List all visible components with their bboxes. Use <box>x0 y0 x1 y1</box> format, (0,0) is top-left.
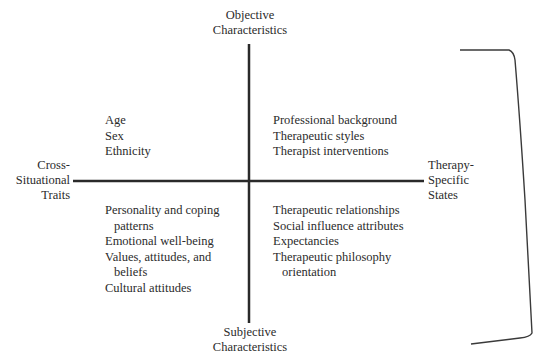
list-item: Cultural attitudes <box>105 281 220 297</box>
top-axis-label-line2: Characteristics <box>190 23 310 38</box>
top-axis-label: Objective Characteristics <box>190 8 310 38</box>
left-axis-label: Cross- Situational Traits <box>0 158 70 203</box>
list-item: Professional background <box>273 113 397 129</box>
list-item: Therapeutic relationships <box>273 203 404 219</box>
left-axis-label-line3: Traits <box>0 188 70 203</box>
list-item: Ethnicity <box>105 144 151 160</box>
list-item: Therapeutic styles <box>273 129 397 145</box>
quadrant-bottom-left: Personality and coping patterns Emotiona… <box>105 203 220 296</box>
list-item: Therapeutic philosophy orientation <box>273 250 404 281</box>
left-axis-label-line2: Situational <box>0 173 70 188</box>
quadrant-top-left: Age Sex Ethnicity <box>105 113 151 160</box>
right-axis-label-line3: States <box>428 188 498 203</box>
list-item: Expectancies <box>273 234 404 250</box>
list-item: Personality and coping patterns <box>105 203 220 234</box>
list-item: Sex <box>105 129 151 145</box>
top-axis-label-line1: Objective <box>190 8 310 23</box>
quadrant-top-right: Professional background Therapeutic styl… <box>273 113 397 160</box>
quadrant-bottom-right: Therapeutic relationships Social influen… <box>273 203 404 281</box>
list-item: Values, attitudes, and beliefs <box>105 250 220 281</box>
list-item: Therapist interventions <box>273 144 397 160</box>
list-item: Emotional well-being <box>105 234 220 250</box>
left-axis-label-line1: Cross- <box>0 158 70 173</box>
bottom-axis-label-line2: Characteristics <box>190 340 310 355</box>
right-axis-label-line1: Therapy- <box>428 158 498 173</box>
right-axis-label: Therapy- Specific States <box>428 158 498 203</box>
right-axis-label-line2: Specific <box>428 173 498 188</box>
list-item: Age <box>105 113 151 129</box>
list-item: Social influence attributes <box>273 219 404 235</box>
bottom-axis-label: Subjective Characteristics <box>190 325 310 355</box>
bottom-axis-label-line1: Subjective <box>190 325 310 340</box>
